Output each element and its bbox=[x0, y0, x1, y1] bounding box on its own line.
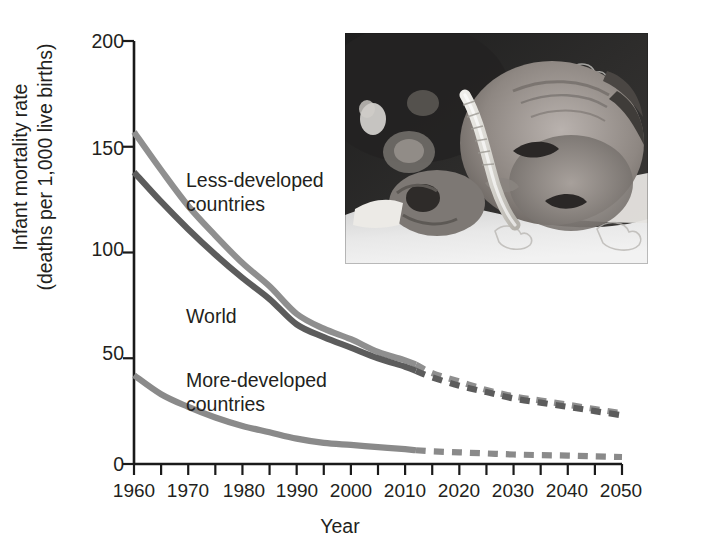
premature-infant-photo bbox=[345, 33, 648, 264]
infant-mortality-figure: Infant mortality rate (deaths per 1,000 … bbox=[0, 0, 703, 553]
series-label-more-developed: More-developed countries bbox=[186, 368, 327, 416]
series-label-world: World bbox=[186, 304, 237, 328]
series-line-0-projected bbox=[416, 365, 622, 414]
x-tick-marks bbox=[134, 464, 622, 475]
series-label-less-developed: Less-developed countries bbox=[186, 168, 324, 216]
y-tick-marks bbox=[123, 41, 134, 464]
series-line-2-projected bbox=[416, 450, 622, 457]
photo-graphic bbox=[345, 33, 648, 264]
